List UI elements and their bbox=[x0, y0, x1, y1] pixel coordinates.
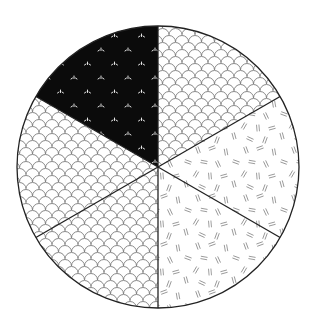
pie-chart-svg bbox=[0, 0, 314, 335]
pie-chart bbox=[0, 0, 314, 335]
